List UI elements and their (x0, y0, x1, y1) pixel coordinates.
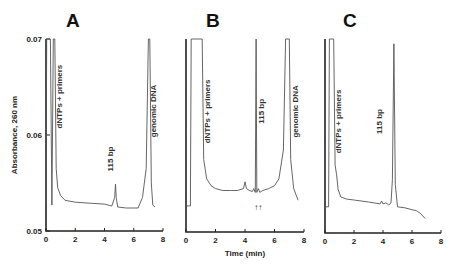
x-axis-label: Time (min) (225, 249, 266, 258)
peak-annotation: genomic DNA (291, 85, 300, 138)
peak-annotation: dNTPs + primers (55, 64, 64, 128)
peak-annotation: 115 bp (257, 99, 266, 124)
panel-label-b: B (206, 10, 220, 31)
x-tick-label: 6 (410, 237, 415, 246)
panel-label-c: C (343, 10, 357, 31)
y-axis-label: Absorbance, 260 nm (10, 96, 19, 174)
peak-annotation: 115 bp (375, 109, 384, 134)
y-tick-label: 0.06 (26, 131, 42, 140)
x-tick-label: 6 (132, 235, 137, 244)
peak-annotation: dNTPs + primers (203, 79, 212, 143)
x-tick-label: 8 (302, 236, 307, 245)
peak-annotation: 115 bp (106, 146, 115, 171)
peak-annotation: dNTPs + primers (334, 89, 343, 153)
x-tick-label: 4 (243, 236, 248, 245)
x-tick-label: 8 (439, 237, 444, 246)
x-tick-label: 2 (352, 237, 357, 246)
x-tick-label: 0 (44, 235, 49, 244)
x-tick-label: 0 (323, 237, 328, 246)
x-tick-label: 8 (161, 235, 166, 244)
arrow-markers: ↑↑ (254, 203, 262, 212)
panel-label-a: A (66, 10, 80, 31)
x-tick-label: 6 (272, 236, 277, 245)
x-tick-label: 2 (213, 236, 218, 245)
x-tick-label: 0 (184, 236, 189, 245)
peak-annotation: genomic DNA (149, 85, 158, 138)
chromatogram-figure: A024680.050.060.07Absorbance, 260 nmdNTP… (0, 0, 457, 266)
y-tick-label: 0.05 (26, 227, 42, 236)
y-tick-label: 0.07 (26, 35, 42, 44)
x-tick-label: 2 (73, 235, 78, 244)
x-tick-label: 4 (102, 235, 107, 244)
x-tick-label: 4 (381, 237, 386, 246)
